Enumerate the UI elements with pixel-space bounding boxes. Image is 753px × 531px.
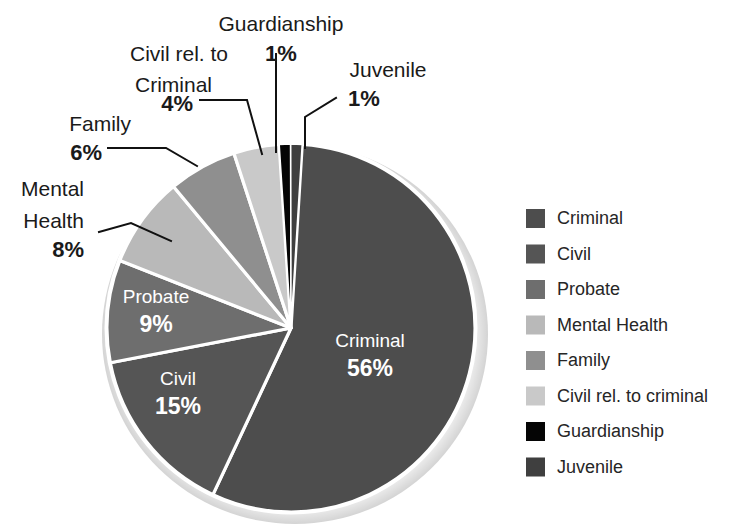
legend-label: Criminal	[557, 208, 623, 228]
callout-civil-rel-percent: 4%	[161, 91, 193, 116]
legend-item-family[interactable]: Family	[526, 350, 610, 370]
callout-juvenile-percent: 1%	[348, 86, 380, 111]
legend-label: Mental Health	[557, 315, 668, 335]
callout-mental-health: Mental Health 8%	[21, 177, 84, 262]
callout-guardianship: Guardianship 1%	[219, 12, 344, 66]
inside-label-criminal-percent: 56%	[347, 355, 393, 381]
inside-label-civil-name: Civil	[160, 368, 196, 389]
legend-item-probate[interactable]: Probate	[526, 279, 620, 299]
inside-label-civil-percent: 15%	[155, 393, 201, 419]
inside-label-civil: Civil 15%	[155, 368, 201, 419]
callout-guardianship-percent: 1%	[265, 41, 297, 66]
legend-item-guardianship[interactable]: Guardianship	[526, 421, 664, 441]
pie-chart-svg: Criminal 56% Civil 15% Probate 9% Mental…	[0, 0, 753, 531]
legend-label: Juvenile	[557, 457, 623, 477]
legend: CriminalCivilProbateMental HealthFamilyC…	[526, 208, 708, 477]
legend-label: Civil rel. to criminal	[557, 386, 708, 406]
inside-label-probate-name: Probate	[123, 286, 190, 307]
callout-guardianship-line1: Guardianship	[219, 12, 344, 35]
inside-label-criminal-name: Criminal	[335, 330, 405, 351]
legend-swatch-icon	[526, 209, 545, 228]
callout-juvenile-line1: Juvenile	[349, 58, 426, 81]
legend-label: Guardianship	[557, 421, 664, 441]
callout-juvenile: Juvenile 1%	[348, 58, 426, 111]
legend-swatch-icon	[526, 245, 545, 264]
legend-swatch-icon	[526, 458, 545, 477]
legend-item-juvenile[interactable]: Juvenile	[526, 457, 623, 477]
inside-label-probate-percent: 9%	[139, 311, 172, 337]
legend-label: Family	[557, 350, 610, 370]
legend-item-criminal[interactable]: Criminal	[526, 208, 623, 228]
legend-swatch-icon	[526, 280, 545, 299]
pie-chart-figure: Criminal 56% Civil 15% Probate 9% Mental…	[0, 0, 753, 531]
callout-civil-rel-line1: Civil rel. to	[130, 42, 228, 65]
legend-item-mental-health[interactable]: Mental Health	[526, 315, 668, 335]
legend-item-civil[interactable]: Civil	[526, 244, 591, 264]
leader-line-juvenile	[305, 98, 336, 148]
legend-swatch-icon	[526, 351, 545, 370]
legend-swatch-icon	[526, 422, 545, 441]
leader-line-family	[108, 148, 197, 166]
legend-swatch-icon	[526, 387, 545, 406]
callout-family: Family 6%	[69, 112, 131, 165]
legend-item-civil-rel-to-criminal[interactable]: Civil rel. to criminal	[526, 386, 708, 406]
callout-family-line1: Family	[69, 112, 131, 135]
callout-mental-health-line1: Mental	[21, 177, 84, 200]
callout-mental-health-line2: Health	[23, 209, 84, 232]
legend-label: Civil	[557, 244, 591, 264]
callout-mental-health-percent: 8%	[52, 237, 84, 262]
legend-swatch-icon	[526, 316, 545, 335]
legend-label: Probate	[557, 279, 620, 299]
callout-civil-rel: Civil rel. to Criminal 4%	[130, 42, 228, 116]
callout-family-percent: 6%	[70, 140, 102, 165]
